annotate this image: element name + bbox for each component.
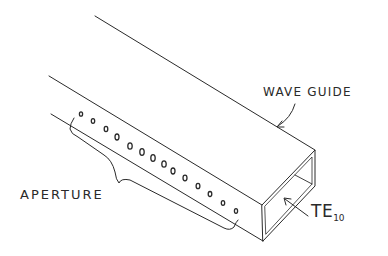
waveguide-pointer-arrow (277, 104, 295, 127)
aperture-hole (171, 168, 175, 174)
aperture-hole (221, 201, 224, 206)
aperture-hole (208, 192, 212, 197)
waveguide-label: WAVE GUIDE (263, 86, 352, 98)
aperture-brace (70, 118, 238, 229)
aperture-hole (151, 155, 155, 162)
te10-mode-label: TE10 (311, 203, 345, 223)
aperture-hole (79, 112, 82, 116)
te-mode-subscript: 10 (333, 213, 344, 223)
aperture-hole (196, 183, 200, 188)
waveguide-front-opening (262, 150, 315, 241)
aperture-hole (128, 143, 132, 149)
aperture-hole (91, 119, 94, 124)
te-mode-text: TE (311, 201, 333, 221)
aperture-hole (115, 134, 119, 140)
aperture-hole (140, 149, 144, 156)
waveguide-top-front-edge (49, 76, 262, 205)
waveguide-top-back-edge (95, 16, 315, 150)
aperture-label: APERTURE (20, 188, 104, 201)
aperture-hole (234, 209, 237, 214)
te10-pointer-arrow (284, 198, 308, 216)
aperture-hole (183, 175, 187, 181)
waveguide-bottom-front-edge (51, 114, 263, 241)
aperture-hole (104, 126, 108, 131)
aperture-hole (162, 161, 166, 167)
